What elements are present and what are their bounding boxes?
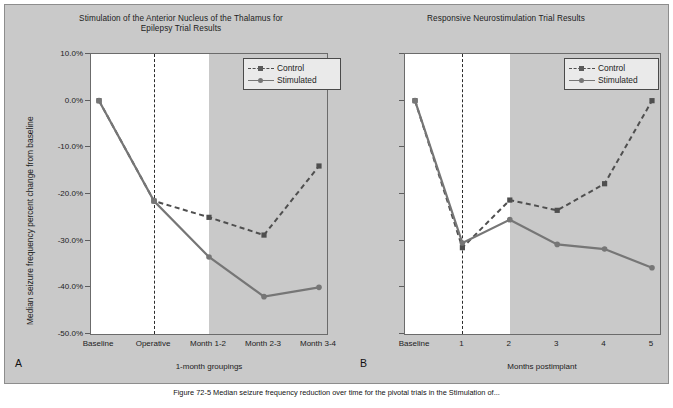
x-axis-title-b: Months postimplant: [507, 362, 576, 371]
chart-title-a-line2: Epilepsy Trial Results: [31, 24, 331, 34]
y-tick-label-2: -10.0%: [42, 142, 83, 151]
x-tick-label-2: 2: [507, 339, 511, 348]
legend-b: Control Stimulated: [564, 58, 659, 90]
data-point-stimulated-2: [507, 217, 513, 223]
legend-swatch-control-b: [569, 63, 595, 73]
legend-label-control-b: Control: [598, 63, 625, 73]
legend-swatch-stimulated-a: [248, 75, 274, 85]
data-point-control-3: [555, 208, 560, 213]
data-point-control-5: [649, 98, 654, 103]
data-point-control-2: [507, 197, 512, 202]
figure-frame: Stimulation of the Anterior Nucleus of t…: [4, 4, 669, 384]
x-tick-label-3: 3: [554, 339, 558, 348]
x-axis-title-a: 1-month groupings: [176, 362, 243, 371]
x-tick-label-1: Operative: [136, 339, 171, 348]
y-axis-title-a: Median seizure frequency percent change …: [25, 116, 35, 325]
series-svg-b: [405, 54, 660, 334]
y-tick-label-0: 10.0%: [42, 49, 83, 58]
x-tick-label-4: 4: [601, 339, 605, 348]
plot-area-a: [90, 53, 328, 335]
data-point-stimulated-4: [316, 285, 322, 291]
data-point-stimulated-3: [554, 242, 560, 248]
panel-a: Stimulation of the Anterior Nucleus of t…: [5, 5, 342, 383]
x-tick-label-0: Baseline: [399, 339, 430, 348]
data-point-stimulated-2: [206, 254, 212, 260]
x-tick-label-3: Month 2-3: [245, 339, 281, 348]
caption-label: Figure 72-5: [173, 388, 211, 397]
data-point-stimulated-4: [602, 246, 608, 252]
data-point-stimulated-0: [412, 98, 418, 104]
data-point-control-1: [460, 245, 465, 250]
y-tick-label-1: 0.0%: [42, 95, 83, 104]
legend-entry-stimulated-b: Stimulated: [569, 74, 652, 86]
series-line-stimulated: [99, 101, 319, 297]
panel-letter-b: B: [360, 357, 367, 369]
caption-text: Median seizure frequency reduction over …: [213, 388, 500, 397]
plot-area-b: [404, 53, 661, 335]
y-tick-label-5: -40.0%: [42, 282, 83, 291]
x-tick-label-0: Baseline: [83, 339, 114, 348]
data-point-stimulated-1: [460, 240, 466, 246]
x-tick-label-2: Month 1-2: [190, 339, 226, 348]
data-point-stimulated-0: [96, 98, 102, 104]
x-tick-label-5: 5: [649, 339, 653, 348]
data-point-stimulated-5: [649, 265, 655, 271]
panel-letter-a: A: [15, 357, 22, 369]
legend-a: Control Stimulated: [243, 58, 341, 90]
legend-label-stimulated-b: Stimulated: [598, 75, 638, 85]
series-line-stimulated: [415, 101, 652, 268]
data-point-control-4: [316, 163, 321, 168]
figure-root: Stimulation of the Anterior Nucleus of t…: [0, 0, 673, 408]
chart-title-b: Responsive Neurostimulation Trial Result…: [356, 14, 656, 24]
panel-b: Responsive Neurostimulation Trial Result…: [342, 5, 670, 383]
figure-caption: Figure 72-5 Median seizure frequency red…: [0, 388, 673, 408]
y-tick-label-3: -20.0%: [42, 189, 83, 198]
data-point-control-4: [602, 181, 607, 186]
legend-swatch-stimulated-b: [569, 75, 595, 85]
y-tick-label-6: -50.0%: [42, 329, 83, 338]
legend-entry-stimulated-a: Stimulated: [248, 74, 334, 86]
legend-entry-control-a: Control: [248, 62, 334, 74]
data-point-stimulated-3: [261, 294, 267, 300]
legend-swatch-control-a: [248, 63, 274, 73]
y-tick-label-4: -30.0%: [42, 235, 83, 244]
chart-title-a: Stimulation of the Anterior Nucleus of t…: [31, 14, 331, 34]
data-point-stimulated-1: [151, 198, 157, 204]
data-point-control-3: [261, 232, 266, 237]
legend-label-control-a: Control: [277, 63, 304, 73]
series-line-control: [415, 101, 652, 248]
legend-entry-control-b: Control: [569, 62, 652, 74]
chart-title-b-line1: Responsive Neurostimulation Trial Result…: [356, 14, 656, 24]
x-tick-label-4: Month 3-4: [300, 339, 336, 348]
chart-title-a-line1: Stimulation of the Anterior Nucleus of t…: [31, 14, 331, 24]
data-point-control-2: [206, 215, 211, 220]
series-svg-a: [91, 54, 327, 334]
x-tick-label-1: 1: [459, 339, 463, 348]
legend-label-stimulated-a: Stimulated: [277, 75, 317, 85]
